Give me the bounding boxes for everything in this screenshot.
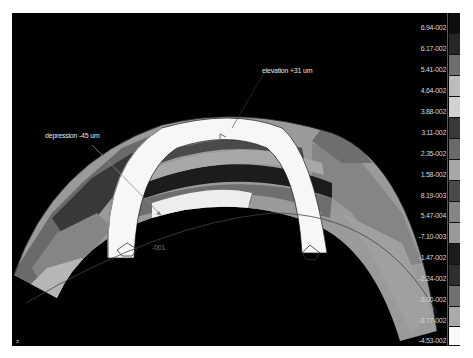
legend-swatch [449,327,460,346]
legend-label: -3.00-002 [419,296,446,303]
legend-swatch [449,76,460,97]
legend-swatch [449,34,460,55]
legend-label: 3.11-002 [421,129,446,136]
legend-swatch [449,118,460,139]
legend-swatch [449,97,460,118]
legend-swatch [449,13,460,34]
legend-label: 5.47-004 [421,212,446,219]
ring-deformation-plot [12,13,460,346]
legend-labels: 6.94-002 6.17-002 5.41-002 4.64-002 3.88… [400,13,446,346]
color-legend-bar [447,13,460,346]
legend-label: 6.17-002 [421,45,446,52]
legend-swatch [449,139,460,160]
legend-label: -4.53-002 [419,337,446,344]
legend-swatch [449,55,460,76]
legend-label: 5.41-002 [421,66,446,73]
legend-label: 2.35-002 [421,150,446,157]
depression-annotation: depression -45 um [45,132,100,139]
axis-triad-icon: z [16,338,19,344]
model-viewport[interactable]: elevation +31 um depression -45 um -001 … [12,13,460,346]
legend-label: 6.94-002 [421,24,446,31]
legend-swatch [449,307,460,327]
legend-swatch [449,223,460,244]
legend-swatch [449,202,460,223]
legend-label: -7.10-003 [419,233,446,240]
legend-label: 8.19-003 [421,192,446,199]
legend-label: -2.24-002 [419,275,446,282]
legend-swatch [449,244,460,265]
legend-label: -1.47-002 [419,254,446,261]
legend-label: 1.58-002 [421,171,446,178]
legend-label: -3.77-002 [419,317,446,324]
legend-swatch [449,286,460,307]
legend-swatch [449,160,460,181]
legend-swatch [449,265,460,286]
legend-swatch [449,181,460,202]
legend-label: 4.64-002 [421,87,446,94]
elevation-annotation: elevation +31 um [262,67,312,74]
legend-label: 3.88-002 [421,108,446,115]
node-label: -001 [152,244,165,251]
